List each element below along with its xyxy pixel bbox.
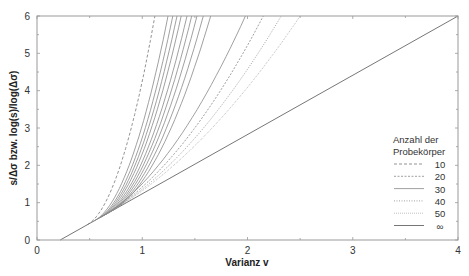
legend-title-line2: Probekörper [393, 146, 445, 157]
legend-label: 10 [435, 159, 446, 170]
y-tick-label: 0 [24, 235, 30, 246]
x-axis-title: Varianz v [225, 257, 269, 268]
legend-title-line1: Anzahl der [393, 134, 438, 145]
curve-30-5 [102, 16, 181, 216]
x-tick-label: 0 [34, 245, 40, 256]
legend-label: ∞ [437, 221, 444, 232]
x-tick-label: 4 [455, 245, 461, 256]
legend-label: 40 [435, 196, 446, 207]
x-tick-label: 3 [350, 245, 356, 256]
y-tick-label: 1 [24, 197, 30, 208]
y-tick-labels: 0123456 [24, 11, 30, 246]
curve-40-12 [102, 16, 263, 216]
y-axis-title: s/Δσ bzw. log(s)/log(Δσ) [8, 71, 19, 186]
curve-20-11 [100, 16, 245, 218]
chart: 01234 0123456 Varianz v s/Δσ bzw. log(s)… [0, 0, 469, 276]
y-tick-label: 4 [24, 85, 30, 96]
legend-label: 30 [435, 184, 446, 195]
y-tick-label: 5 [24, 48, 30, 59]
y-tick-label: 2 [24, 160, 30, 171]
x-tick-labels: 01234 [34, 245, 461, 256]
x-tick-label: 1 [139, 245, 145, 256]
y-tick-label: 3 [24, 123, 30, 134]
legend-label: 50 [435, 208, 446, 219]
x-tick-label: 2 [245, 245, 251, 256]
legend: Anzahl der Probekörper 1020304050∞ [378, 134, 454, 236]
legend-label: 20 [435, 171, 446, 182]
y-tick-label: 6 [24, 11, 30, 22]
curve-50-13 [104, 16, 281, 215]
